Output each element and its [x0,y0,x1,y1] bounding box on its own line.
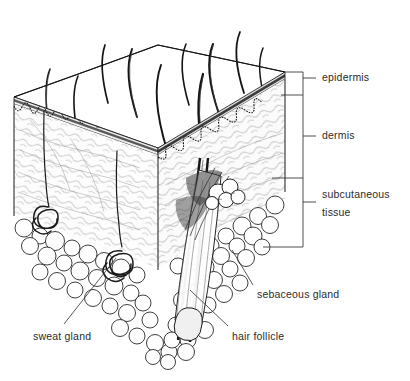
label-subcutaneous-tissue-line1: subcutaneous [322,188,390,201]
label-dermis: dermis [322,129,355,142]
label-sebaceous-gland: sebaceous gland [257,288,339,301]
label-epidermis: epidermis [322,71,369,84]
skin-cross-section-figure: epidermis dermis subcutaneous tissue seb… [0,0,410,381]
label-hair-follicle: hair follicle [232,330,284,343]
label-sweat-gland: sweat gland [33,330,91,343]
label-subcutaneous-tissue-line2: tissue [322,206,351,219]
